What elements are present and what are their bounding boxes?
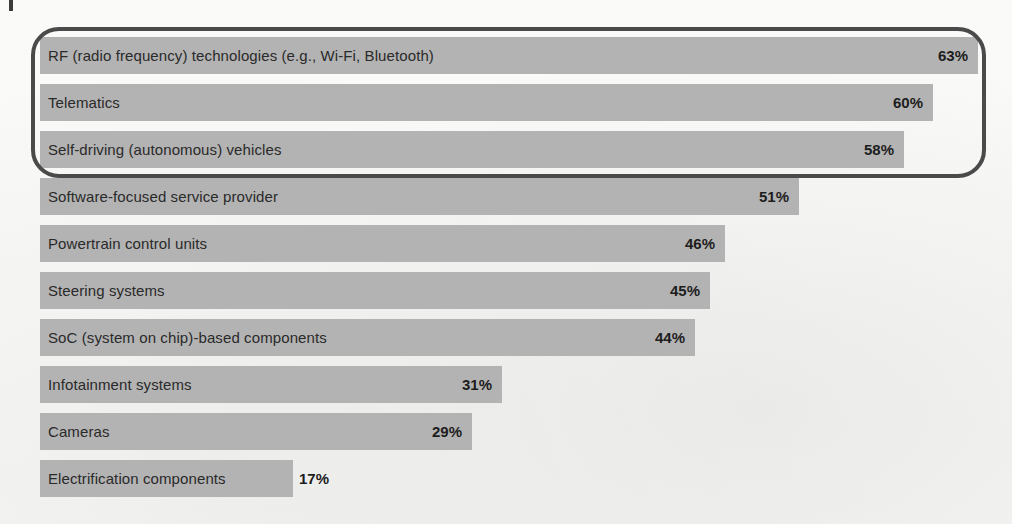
bar-row: Cameras29% <box>40 413 472 450</box>
bar-category-label: Powertrain control units <box>48 225 207 262</box>
bar-row: Electrification components17% <box>40 460 293 497</box>
bar-value-label: 44% <box>655 319 685 356</box>
bar-category-label: Steering systems <box>48 272 165 309</box>
bar-category-label: Electrification components <box>48 460 226 497</box>
bar-row: RF (radio frequency) technologies (e.g.,… <box>40 37 978 74</box>
horizontal-bar-chart: RF (radio frequency) technologies (e.g.,… <box>0 0 1012 524</box>
bar-value-label: 51% <box>759 178 789 215</box>
bar-category-label: Cameras <box>48 413 110 450</box>
bar-category-label: RF (radio frequency) technologies (e.g.,… <box>48 37 434 74</box>
bar-category-label: Self-driving (autonomous) vehicles <box>48 131 282 168</box>
bar-value-label: 31% <box>462 366 492 403</box>
bar-row: Software-focused service provider51% <box>40 178 799 215</box>
bar-row: Telematics60% <box>40 84 933 121</box>
bar-value-label: 45% <box>670 272 700 309</box>
bar-value-label: 58% <box>864 131 894 168</box>
bar-category-label: Software-focused service provider <box>48 178 278 215</box>
bar-value-label: 60% <box>893 84 923 121</box>
bar-row: Powertrain control units46% <box>40 225 725 262</box>
bar-value-label: 17% <box>299 460 329 497</box>
bar-row: SoC (system on chip)-based components44% <box>40 319 695 356</box>
bar-value-label: 46% <box>685 225 715 262</box>
bar-row: Infotainment systems31% <box>40 366 502 403</box>
bar-category-label: Telematics <box>48 84 120 121</box>
bar-row: Steering systems45% <box>40 272 710 309</box>
bar-fill <box>40 84 933 121</box>
bar-category-label: SoC (system on chip)-based components <box>48 319 327 356</box>
bar-category-label: Infotainment systems <box>48 366 192 403</box>
bar-row: Self-driving (autonomous) vehicles58% <box>40 131 904 168</box>
bar-value-label: 29% <box>432 413 462 450</box>
bar-value-label: 63% <box>938 37 968 74</box>
